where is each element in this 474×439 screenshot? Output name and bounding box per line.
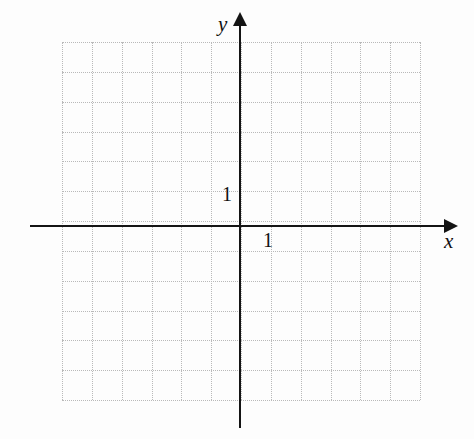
x-axis-label: x [444, 231, 453, 252]
grid-line-horizontal [62, 191, 420, 192]
grid-line-horizontal [62, 161, 420, 162]
x-axis-unit-tick-label: 1 [263, 230, 273, 250]
y-axis-unit-tick-label: 1 [222, 184, 232, 204]
y-axis-line [239, 26, 241, 428]
grid-line-horizontal [62, 311, 420, 312]
graph-canvas: y x 1 1 [0, 0, 474, 439]
grid-line-horizontal [62, 72, 420, 73]
grid-line-horizontal [62, 102, 420, 103]
grid-line-horizontal [62, 221, 420, 222]
grid-line-horizontal [62, 251, 420, 252]
grid-line-horizontal [62, 42, 420, 43]
y-axis-arrowhead-icon [233, 12, 247, 26]
grid-line-horizontal [62, 370, 420, 371]
grid-line-horizontal [62, 400, 420, 401]
coordinate-grid [62, 42, 420, 400]
grid-line-vertical [420, 42, 421, 400]
grid-line-horizontal [62, 281, 420, 282]
grid-line-horizontal [62, 132, 420, 133]
y-axis-label: y [218, 14, 227, 35]
grid-line-horizontal [62, 340, 420, 341]
